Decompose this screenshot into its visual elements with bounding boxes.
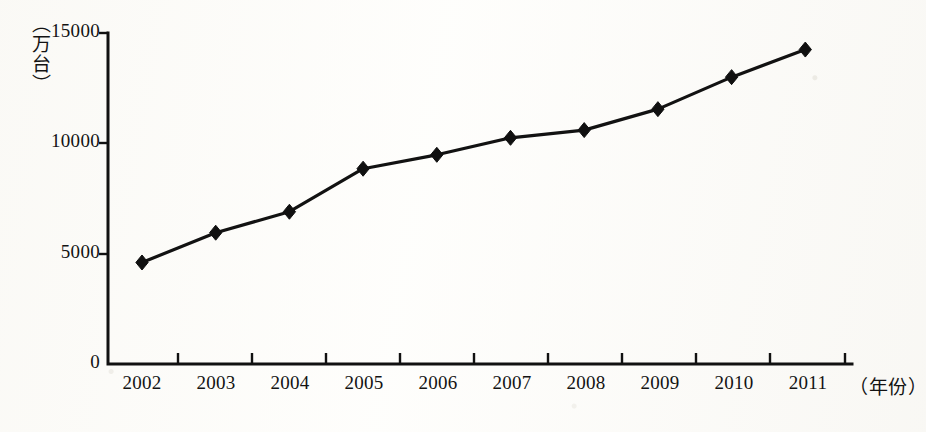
data-point-marker <box>210 225 222 240</box>
x-tick-label-2008: 2008 <box>546 372 626 394</box>
line-chart: （万台） 15000 10000 5000 0 2002 2003 2004 2… <box>0 0 926 432</box>
data-point-marker <box>652 102 664 117</box>
x-tick-label-2011: 2011 <box>768 372 848 394</box>
data-point-marker <box>799 42 811 57</box>
data-point-marker <box>136 255 148 270</box>
x-tick-label-2003: 2003 <box>176 372 256 394</box>
x-tick-label-2006: 2006 <box>398 372 478 394</box>
x-tick-label-2004: 2004 <box>250 372 330 394</box>
data-line <box>142 50 805 263</box>
data-point-marker <box>725 70 737 85</box>
data-point-marker <box>431 147 443 162</box>
x-tick-label-2010: 2010 <box>694 372 774 394</box>
data-point-marker <box>504 130 516 145</box>
data-point-marker <box>283 204 295 219</box>
x-tick-label-2007: 2007 <box>472 372 552 394</box>
plot-area <box>0 0 926 432</box>
x-axis-title: （年份） <box>849 372 926 399</box>
x-tick-label-2002: 2002 <box>102 372 182 394</box>
x-tick-label-2005: 2005 <box>324 372 404 394</box>
x-tick-label-2009: 2009 <box>620 372 700 394</box>
data-point-marker <box>578 123 590 138</box>
data-markers <box>136 42 812 270</box>
chart-axes <box>108 33 852 364</box>
data-point-marker <box>357 161 369 176</box>
